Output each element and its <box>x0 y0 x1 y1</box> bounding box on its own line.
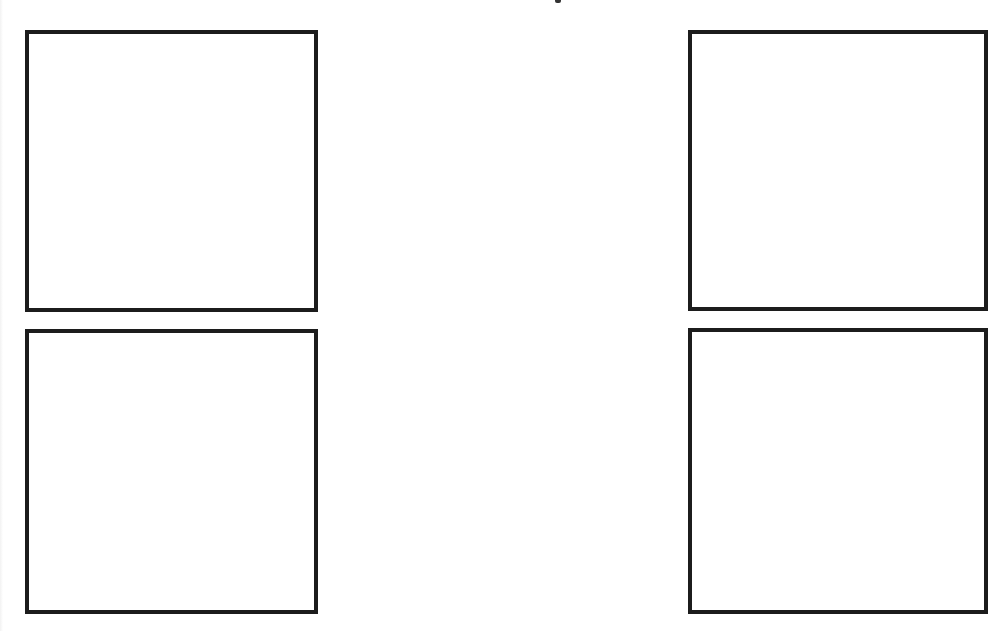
panel-bottom-left <box>25 329 318 614</box>
clipped-text-fragment <box>555 0 561 3</box>
panel-bottom-right <box>688 328 988 614</box>
panel-top-right <box>688 30 988 311</box>
panel-top-left <box>25 30 318 312</box>
left-edge-strip <box>0 0 3 631</box>
